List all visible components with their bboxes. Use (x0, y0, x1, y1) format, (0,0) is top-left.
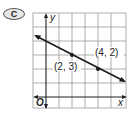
y-axis-label: y (49, 12, 56, 23)
coordinate-plane: y x O (2, 3) (4, 2) (0, 0, 131, 113)
point-label-4-2: (4, 2) (95, 47, 118, 58)
x-axis (33, 95, 127, 99)
grid (33, 13, 126, 108)
origin-label: O (36, 97, 44, 108)
point-4-2 (96, 67, 100, 71)
point-2-3 (70, 53, 74, 57)
x-axis-label: x (117, 97, 124, 108)
plotted-line (34, 35, 126, 82)
point-label-2-3: (2, 3) (54, 61, 77, 72)
